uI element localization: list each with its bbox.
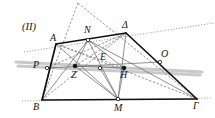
point-label-Z: Z xyxy=(71,70,77,80)
point-label-E: E xyxy=(100,52,106,62)
apex-leg-right xyxy=(78,3,197,99)
cevian-M-E xyxy=(100,68,118,99)
point-label-N: N xyxy=(84,25,91,35)
point-marker-E xyxy=(98,66,101,69)
point-label-A: A xyxy=(50,33,56,43)
point-label-Gamma: Γ xyxy=(193,101,199,111)
point-marker-O xyxy=(158,60,161,63)
point-label-Delta: Δ xyxy=(122,20,128,30)
point-marker-P xyxy=(45,66,48,69)
point-label-O: O xyxy=(161,49,168,59)
figure-number-label: (II) xyxy=(22,22,36,33)
side-A-B xyxy=(42,44,56,100)
point-label-H: H xyxy=(120,70,127,80)
geometry-figure-panel: (II) AΔBΓNMPOEZH xyxy=(0,0,215,118)
chord-P-Delta xyxy=(47,33,126,68)
point-label-B: B xyxy=(33,102,39,112)
apex-leg-left xyxy=(42,3,78,100)
point-marker-M xyxy=(116,97,119,100)
point-label-M: M xyxy=(114,103,122,113)
point-marker-N xyxy=(86,38,89,41)
highlight-line-group xyxy=(16,62,202,75)
point-label-P: P xyxy=(33,60,39,70)
point-marker-Z xyxy=(73,64,77,68)
